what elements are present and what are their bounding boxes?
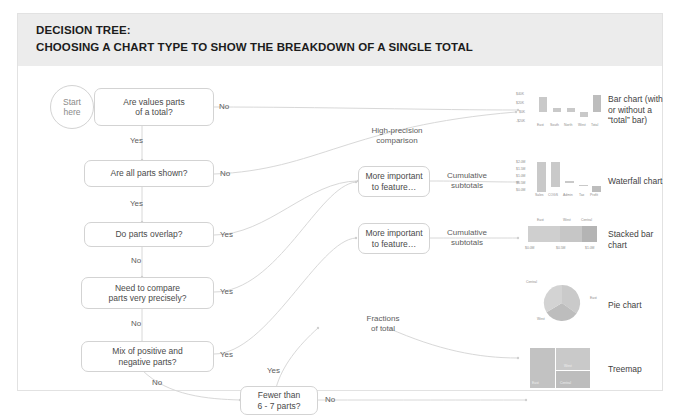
treemap-tile-central	[556, 371, 590, 388]
sb-xtick-0: $0.0M	[525, 246, 534, 250]
treemap-label-west: West	[564, 364, 572, 368]
edge-label-q1-yes: Yes	[130, 136, 143, 146]
sb-seg-west	[560, 226, 582, 242]
thumbnail-stacked-bar-chart: East West Central $0.0M $0.5M $1.0M	[523, 218, 609, 262]
wf-xtick-sales: Sales	[535, 193, 543, 197]
bar-ytick-2: $0K	[519, 110, 525, 114]
wf-ytick-4: $0.0M	[516, 188, 525, 192]
bar-east	[539, 97, 547, 112]
bar-total	[593, 95, 601, 112]
wire-q5yes-m2	[214, 238, 356, 354]
outcome-label-treemap: Treemap	[608, 364, 680, 375]
question-node-are-values-parts-of-total[interactable]: Are values parts of a total?	[94, 88, 214, 126]
slide-header: DECISION TREE: CHOOSING A CHART TYPE TO …	[18, 14, 662, 66]
wf-profit	[592, 186, 601, 192]
bar-west	[580, 112, 588, 117]
page-title-line1: DECISION TREE:	[36, 24, 131, 36]
outcome-label-waterfall-chart: Waterfall chart	[608, 176, 680, 187]
edge-label-high-precision-comparison: High-precision comparison	[362, 126, 432, 145]
bar-ytick-3: -$20K	[516, 119, 525, 123]
treemap-tile-west	[556, 348, 590, 371]
wf-sales	[537, 162, 546, 192]
edge-label-q5-yes: Yes	[220, 350, 233, 360]
question-node-mix-positive-negative[interactable]: Mix of positive and negative parts?	[81, 341, 214, 372]
treemap-label-east: East	[532, 381, 539, 385]
wire-q1no-bar	[214, 107, 518, 110]
wf-tax	[579, 185, 588, 186]
wf-cogs	[551, 162, 560, 187]
wf-xtick-cogs: COGS	[548, 193, 558, 197]
edge-label-q4-no: No	[131, 319, 141, 329]
edge-label-q3-no: No	[131, 256, 141, 266]
edge-label-q2-yes: Yes	[130, 199, 143, 209]
edge-label-q1-no: No	[219, 102, 229, 112]
bar-xtick-east: East	[537, 123, 544, 127]
edge-label-q6-yes: Yes	[267, 366, 280, 376]
outcome-label-pie-chart: Pie chart	[608, 300, 680, 311]
sb-seg-east	[528, 226, 560, 242]
bar-ytick-0: $40K	[516, 92, 524, 96]
edge-label-q5-no: No	[152, 378, 162, 388]
wire-q4yes-m1	[214, 182, 356, 292]
mid-node-more-important-to-feature-1[interactable]: More important to feature…	[358, 166, 430, 197]
treemap-label-central: Central	[560, 381, 571, 385]
question-node-are-all-parts-shown[interactable]: Are all parts shown?	[84, 160, 214, 187]
thumbnail-pie-chart: Central East West	[523, 278, 609, 328]
sb-xtick-1: $0.5M	[556, 246, 565, 250]
wire-q6yes-up	[276, 328, 318, 388]
sb-seg-central	[582, 226, 597, 242]
wf-ytick-2: $1.0M	[516, 174, 525, 178]
edge-label-cumulative-subtotals-1: Cumulative subtotals	[438, 171, 496, 190]
outcome-label-stacked-bar-chart: Stacked bar chart	[608, 229, 680, 250]
thumbnail-bar-chart: $40K $20K $0K -$20K East South North Wes…	[516, 90, 602, 132]
thumbnail-treemap: East West Central	[530, 348, 616, 394]
edge-label-q4-yes: Yes	[220, 287, 233, 297]
edge-label-cumulative-subtotals-2: Cumulative subtotals	[438, 228, 496, 247]
bar-xtick-total: Total	[591, 123, 598, 127]
bar-xtick-west: West	[578, 123, 586, 127]
edge-label-q6-no: No	[325, 395, 335, 405]
thumbnail-waterfall-chart: $2.0M $1.5M $1.0M $0.5M $0.0M Sales COGS…	[516, 159, 602, 201]
wf-xtick-tax: Tax	[579, 193, 584, 197]
sb-xtick-2: $1.0M	[585, 246, 594, 250]
wf-xtick-admin: Admin	[563, 193, 573, 197]
wf-admin	[565, 181, 574, 183]
bar-ytick-1: $20K	[516, 101, 524, 105]
sb-seg-label-east: East	[537, 218, 544, 222]
mid-node-more-important-to-feature-2[interactable]: More important to feature…	[358, 223, 430, 254]
pie-label-east: East	[590, 296, 597, 300]
wf-ytick-1: $1.5M	[516, 167, 525, 171]
outcome-label-bar-chart: Bar chart (with or without a “total” bar…	[608, 94, 680, 126]
sb-seg-label-central: Central	[581, 218, 592, 222]
pie-label-central: Central	[526, 280, 537, 284]
question-node-compare-precisely[interactable]: Need to compare parts very precisely?	[81, 277, 214, 309]
sb-seg-label-west: West	[563, 218, 571, 222]
edge-label-q3-yes: Yes	[220, 230, 233, 240]
question-node-fewer-than-parts[interactable]: Fewer than 6 - 7 parts?	[240, 386, 318, 415]
wf-ytick-3: $0.5M	[516, 181, 525, 185]
wire-q3yes-m1	[214, 181, 358, 235]
page-title-line2: CHOOSING A CHART TYPE TO SHOW THE BREAKD…	[36, 41, 473, 53]
bar-xtick-north: North	[564, 123, 572, 127]
bar-north	[567, 108, 575, 112]
question-node-do-parts-overlap[interactable]: Do parts overlap?	[84, 222, 214, 247]
start-node[interactable]: Start here	[50, 85, 94, 129]
bar-south	[553, 108, 561, 112]
wf-ytick-0: $2.0M	[516, 160, 525, 164]
diagram-canvas: Start here Are values parts of a total? …	[18, 66, 662, 390]
bar-xtick-south: South	[550, 123, 559, 127]
edge-label-q2-no: No	[220, 169, 230, 179]
slide: DECISION TREE: CHOOSING A CHART TYPE TO …	[18, 14, 662, 390]
wf-xtick-profit: Profit	[590, 193, 598, 197]
edge-label-fractions-of-total: Fractions of total	[354, 314, 412, 333]
pie-label-west: West	[537, 317, 545, 321]
